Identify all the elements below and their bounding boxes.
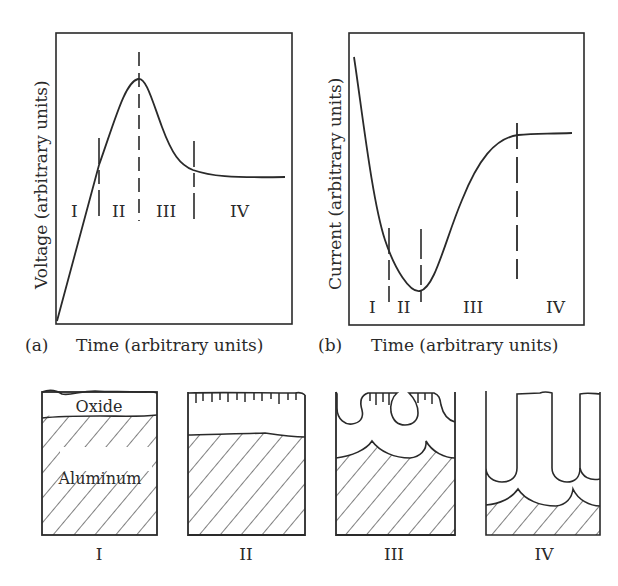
stage-label: IV — [535, 544, 555, 564]
current-curve — [354, 57, 572, 291]
pore-outline — [336, 392, 455, 425]
stage-III-cross-section: III — [336, 392, 455, 564]
region-label: IV — [230, 201, 250, 221]
voltage-curve — [57, 79, 285, 321]
stage-I-cross-section: Oxide Aluminum I — [42, 390, 157, 564]
stage-II-cross-section: II — [188, 392, 305, 564]
region-label: I — [369, 297, 376, 317]
region-label: II — [397, 297, 410, 317]
x-axis-label: Time (arbitrary units) — [76, 335, 263, 355]
region-label: II — [112, 201, 125, 221]
stage-label: I — [96, 544, 103, 564]
y-axis-label: Current (arbitrary units) — [325, 78, 345, 290]
pore-initiation-marks — [196, 393, 296, 404]
current-plot: I II III IV Current (arbitrary units) (b… — [318, 33, 584, 355]
panel-label: (b) — [318, 335, 342, 355]
plot-a-frame — [56, 33, 292, 324]
region-label: IV — [546, 297, 566, 317]
stage-label: III — [384, 544, 404, 564]
y-axis-label: Voltage (arbitrary units) — [31, 80, 51, 290]
anodization-diagram: I II III IV Voltage (arbitrary units) (a… — [0, 0, 618, 586]
aluminum-substrate — [486, 489, 600, 535]
stage-label: II — [239, 544, 252, 564]
aluminum-substrate — [336, 441, 455, 535]
plot-b-frame — [349, 33, 584, 325]
aluminum-label: Aluminum — [57, 469, 141, 488]
stage-IV-cross-section: IV — [486, 391, 600, 564]
pore-marks — [370, 393, 432, 405]
oxide-label: Oxide — [76, 397, 123, 416]
region-label: III — [156, 201, 176, 221]
region-label: I — [71, 201, 78, 221]
aluminum-substrate — [188, 433, 305, 535]
x-axis-label: Time (arbitrary units) — [371, 335, 558, 355]
voltage-plot: I II III IV Voltage (arbitrary units) (a… — [25, 33, 292, 355]
panel-label: (a) — [25, 335, 48, 355]
region-label: III — [463, 297, 483, 317]
